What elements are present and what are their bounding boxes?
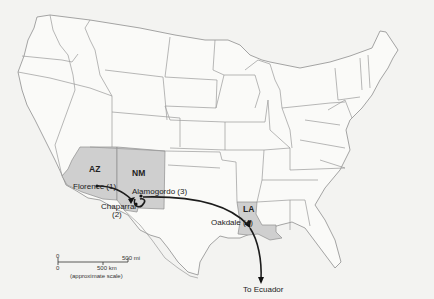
label-oakdale: Oakdale (4) [211,218,253,227]
scale-bar: 0 0 500 mi 500 km (approximate scale) [56,253,140,279]
label-la: LA [243,204,254,214]
label-az: AZ [89,164,100,174]
label-alamogordo: Alamogordo (3) [132,187,187,196]
scale-mi-label: 500 mi [122,255,140,261]
label-nm: NM [132,168,145,178]
scale-note: (approximate scale) [70,273,123,279]
scale-km-label: 500 km [97,265,117,271]
scale-zero-mi: 0 [56,253,60,259]
label-florence: Florence (1) [73,182,116,191]
scale-zero-km: 0 [56,265,60,271]
us-landmass [18,15,398,275]
us-map: AZ NM LA Florence (1) Chaparral (2) Alam… [0,0,434,299]
route-oakdale-ecuador [250,228,261,280]
label-chaparral-order: (2) [112,210,122,219]
label-to-ecuador: To Ecuador [243,285,284,294]
arrowhead-3 [258,277,264,284]
